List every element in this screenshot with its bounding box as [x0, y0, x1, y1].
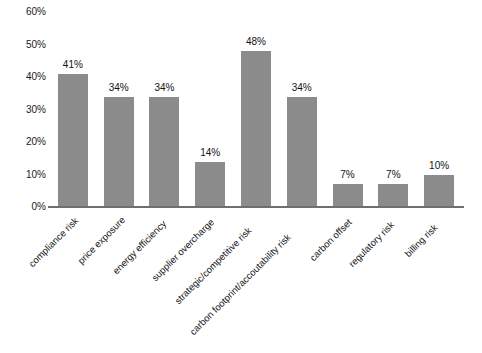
- bar-chart: 60%50%40%30%20%10%0% 41%34%34%14%48%34%7…: [0, 0, 482, 353]
- x-axis-label: regulatory risk: [347, 220, 396, 269]
- x-axis-label: carbon footprint/accoutability risk: [188, 232, 293, 337]
- x-axis-label: compliance risk: [27, 216, 80, 269]
- x-axis-label: carbon offset: [308, 217, 354, 263]
- x-axis-category-labels: compliance riskprice exposureenergy effi…: [0, 0, 482, 353]
- x-axis-label: billing risk: [403, 223, 440, 260]
